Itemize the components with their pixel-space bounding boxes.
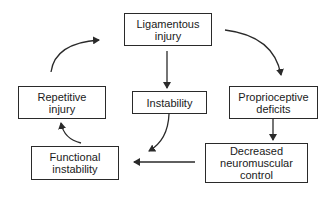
node-label: Functional instability — [50, 151, 101, 175]
node-proprioceptive-deficits: Proprioceptive deficits — [229, 86, 318, 119]
node-label: Instability — [147, 97, 193, 109]
node-label: Repetitive injury — [38, 91, 87, 115]
node-label: Decreased neuromuscular control — [220, 145, 293, 181]
node-repetitive-injury: Repetitive injury — [18, 86, 106, 119]
arrow-repetitive-to-ligamentous — [51, 40, 99, 72]
node-functional-instability: Functional instability — [31, 146, 119, 180]
arrow-ligamentous-to-proprioceptive — [225, 30, 281, 75]
node-label: Proprioceptive deficits — [238, 91, 308, 115]
node-ligamentous-injury: Ligamentous injury — [124, 13, 212, 46]
node-label: Ligamentous injury — [137, 18, 200, 42]
arrow-instability-to-functional — [149, 114, 169, 151]
diagram-canvas: Ligamentous injury Repetitive injury Ins… — [0, 0, 334, 201]
arrow-functional-to-repetitive — [61, 123, 81, 143]
node-instability: Instability — [132, 91, 207, 114]
node-decreased-neuromuscular-control: Decreased neuromuscular control — [205, 143, 308, 183]
